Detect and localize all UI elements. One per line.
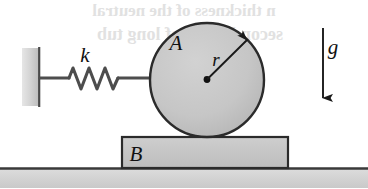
label-gravity: g [328, 35, 339, 59]
block-b-body [122, 137, 288, 168]
physics-figure: n thickness of the neutral second block … [0, 0, 368, 188]
ground [0, 169, 368, 189]
label-disk-a: A [168, 31, 183, 55]
label-block-b: B [130, 142, 143, 166]
figure-canvas: n thickness of the neutral second block … [0, 0, 368, 188]
block-b [122, 137, 288, 168]
label-spring-constant: k [80, 43, 90, 67]
bleed-line-1: n thickness of the neutral [92, 1, 276, 20]
disk-a [150, 23, 264, 137]
wall-body [22, 48, 40, 106]
wall-support [22, 47, 40, 107]
ground-fill [0, 169, 368, 188]
label-radius: r [212, 49, 220, 70]
